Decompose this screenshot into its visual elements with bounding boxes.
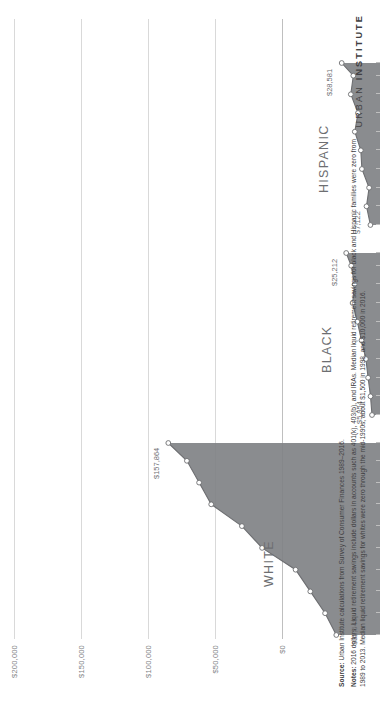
x-tickmark xyxy=(376,252,380,253)
x-tickmark xyxy=(376,634,380,635)
x-tickmark xyxy=(376,358,380,359)
end-value-hispanic: $28,581 xyxy=(325,69,334,96)
y-axis-label-50000: $50,000 xyxy=(211,645,220,674)
x-tickmark xyxy=(376,612,380,613)
x-tickmark xyxy=(376,283,380,284)
x-tickmark xyxy=(376,460,380,461)
x-tickmark xyxy=(376,187,380,188)
source-text: Urban Institute calculations from Survey… xyxy=(338,439,345,662)
y-axis-label-100000: $100,000 xyxy=(144,645,153,678)
x-tickmark xyxy=(376,339,380,340)
x-tickmark xyxy=(376,302,380,303)
x-tickmark xyxy=(376,321,380,322)
x-tickmark xyxy=(376,482,380,483)
logo-institute: INSTITUTE xyxy=(354,14,364,80)
x-tickmark xyxy=(376,503,380,504)
x-tickmark xyxy=(376,224,380,225)
x-tickmark xyxy=(376,168,380,169)
gridline-150000: $150,000 xyxy=(81,19,82,639)
notes-label: Notes: xyxy=(350,666,357,687)
x-tickmark xyxy=(376,112,380,113)
x-tickmark xyxy=(376,590,380,591)
x-tickmark xyxy=(376,205,380,206)
x-tickmark xyxy=(376,131,380,132)
panel-title-white: WHITE xyxy=(262,540,276,587)
x-tickmark xyxy=(376,569,380,570)
x-tickmark xyxy=(376,525,380,526)
gridline-200000: $200,000 xyxy=(14,19,15,639)
chart-figure: $200,000 $150,000 $100,000 $50,000 $0 xyxy=(0,0,380,701)
x-tickmark xyxy=(376,395,380,396)
x-tickmark xyxy=(376,414,380,415)
x-tickmark xyxy=(376,442,380,443)
urban-institute-logo: URBAN INSTITUTE xyxy=(354,14,364,128)
rotated-figure-wrapper: $200,000 $150,000 $100,000 $50,000 $0 xyxy=(0,0,380,701)
panel-title-black: BLACK xyxy=(320,326,334,374)
x-tickmark xyxy=(376,547,380,548)
x-tickmark xyxy=(376,75,380,76)
end-value-white: $157,864 xyxy=(152,448,161,479)
x-tickmark xyxy=(376,149,380,150)
x-tickmark xyxy=(376,93,380,94)
footer-notes: Source: Urban Institute calculations fro… xyxy=(337,127,370,687)
notes-line: Notes: 2016 dollars. Liquid retirement s… xyxy=(349,127,368,687)
y-axis-label-0: $0 xyxy=(278,645,287,654)
y-axis-label-150000: $150,000 xyxy=(77,645,86,678)
source-label: Source: xyxy=(338,662,345,687)
x-tickmark xyxy=(376,377,380,378)
x-tickmark xyxy=(376,265,380,266)
y-axis-label-200000: $200,000 xyxy=(10,645,19,678)
logo-urban: URBAN xyxy=(354,85,364,128)
source-line: Source: Urban Institute calculations fro… xyxy=(337,127,347,687)
panel-title-hispanic: HISPANIC xyxy=(317,124,331,193)
x-tickmark xyxy=(376,62,380,63)
notes-text: 2016 dollars. Liquid retirement savings … xyxy=(350,139,367,687)
